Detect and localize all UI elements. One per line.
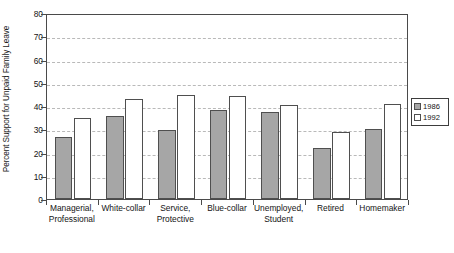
- bar-1986-2: [158, 130, 176, 199]
- legend-label-1992: 1992: [423, 113, 440, 122]
- bar-series-layer: [47, 15, 407, 199]
- bar-chart-figure: Percent Support for Unpaid Family Leave …: [0, 0, 454, 253]
- bar-1986-0: [55, 137, 73, 199]
- legend-swatch-icon-1986: [414, 103, 421, 110]
- bar-1986-1: [106, 116, 124, 199]
- x-axis-label-6: Homemaker: [347, 203, 417, 214]
- y-tick-label-70: 70: [21, 33, 43, 41]
- legend-item-1992: 1992: [414, 112, 445, 123]
- bar-1986-5: [313, 148, 331, 199]
- chart-legend: 1986 1992: [411, 98, 449, 126]
- legend-label-1986: 1986: [423, 102, 440, 111]
- legend-item-1986: 1986: [414, 101, 445, 112]
- y-tick-label-40: 40: [21, 103, 43, 111]
- bar-1986-3: [210, 110, 228, 199]
- bar-1992-4: [280, 105, 298, 199]
- y-tick-label-20: 20: [21, 150, 43, 158]
- plot-area: [46, 14, 408, 200]
- y-tick-label-50: 50: [21, 80, 43, 88]
- legend-swatch-icon-1992: [414, 114, 421, 121]
- y-tick-label-30: 30: [21, 126, 43, 134]
- bar-1986-4: [261, 112, 279, 199]
- bar-1992-0: [74, 118, 92, 199]
- bar-1992-1: [125, 99, 143, 199]
- bar-1992-6: [384, 104, 402, 199]
- bar-1986-6: [365, 129, 383, 199]
- y-axis-title: Percent Support for Unpaid Family Leave: [0, 7, 14, 191]
- bar-1992-3: [229, 96, 247, 199]
- y-tick-label-80: 80: [21, 10, 43, 18]
- y-tick-label-60: 60: [21, 57, 43, 65]
- y-tick-label-10: 10: [21, 173, 43, 181]
- bar-1992-2: [177, 95, 195, 199]
- bar-1992-5: [332, 132, 350, 199]
